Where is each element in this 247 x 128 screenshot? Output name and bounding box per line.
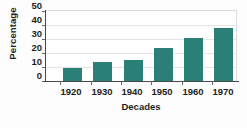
y-tick-label-10: 10 (22, 57, 42, 67)
x-tick-label-1960: 1960 (176, 86, 210, 98)
plot-area (45, 10, 237, 81)
y-axis-tick-labels: 0 10 20 30 40 50 (22, 5, 42, 85)
y-tick-label-0: 0 (22, 71, 42, 81)
bar-1940 (124, 60, 143, 81)
bar-1930 (93, 62, 112, 81)
bar-1970 (214, 28, 233, 81)
x-tick-label-1930: 1930 (85, 86, 119, 98)
y-tick-label-40: 40 (22, 15, 42, 25)
x-tick-label-1920: 1920 (54, 86, 88, 98)
bar-series (46, 11, 236, 81)
x-tick-label-1950: 1950 (145, 86, 179, 98)
x-axis-line (43, 81, 239, 82)
y-tick-label-30: 30 (22, 29, 42, 39)
y-tick-label-20: 20 (22, 43, 42, 53)
bar-1960 (184, 38, 203, 81)
x-tick-mark-4 (182, 81, 183, 85)
y-axis-line (45, 10, 46, 82)
x-tick-mark-3 (151, 81, 152, 85)
x-tick-label-1940: 1940 (115, 86, 149, 98)
x-tick-mark-5 (212, 81, 213, 85)
bar-1950 (154, 48, 173, 81)
bar-1920 (63, 68, 82, 81)
x-tick-label-1970: 1970 (206, 86, 240, 98)
y-axis-title: Percentage (7, 0, 18, 72)
x-tick-mark-0 (60, 81, 61, 85)
x-axis-title: Decades (45, 101, 237, 112)
y-tick-label-50: 50 (22, 1, 42, 11)
bar-chart-figure: Percentage 0 10 20 30 40 50 1920 (0, 0, 247, 128)
x-tick-mark-2 (121, 81, 122, 85)
x-tick-mark-1 (91, 81, 92, 85)
x-axis-tick-labels: 1920 1930 1940 1950 1960 1970 (45, 86, 237, 100)
